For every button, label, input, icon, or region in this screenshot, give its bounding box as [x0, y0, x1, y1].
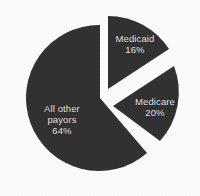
- pie-chart-figure: Medicaid 16% Medicare 20% All other payo…: [0, 0, 200, 196]
- pie-chart-svg: [0, 0, 200, 196]
